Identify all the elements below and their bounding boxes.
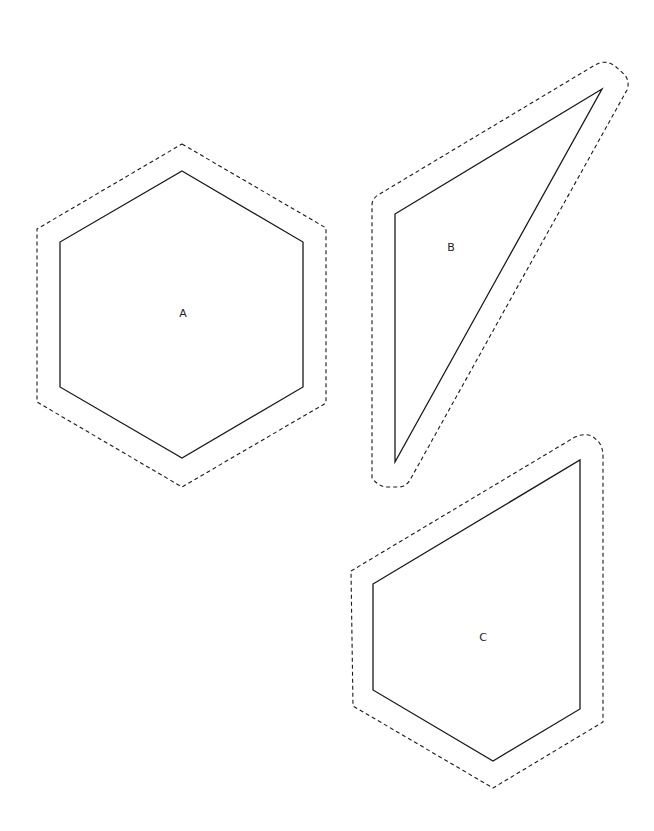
diagram-canvas: A B C: [0, 0, 654, 831]
shape-a: A: [37, 144, 326, 487]
shape-b-label: B: [447, 241, 455, 254]
shape-b: B: [372, 62, 628, 487]
shape-b-triangle: [395, 89, 602, 462]
shape-c-label: C: [479, 631, 487, 644]
shape-c-pentagon: [373, 460, 580, 761]
shape-c: C: [351, 435, 603, 788]
shape-a-label: A: [179, 307, 187, 320]
